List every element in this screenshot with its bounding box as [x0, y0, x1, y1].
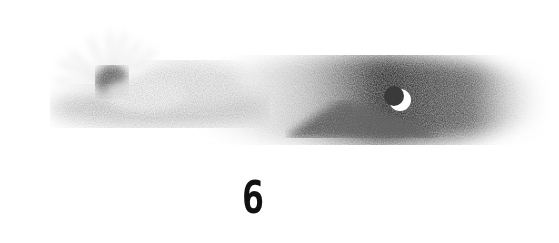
page-number: 6 — [239, 176, 268, 220]
day-night-illustration — [0, 0, 559, 170]
